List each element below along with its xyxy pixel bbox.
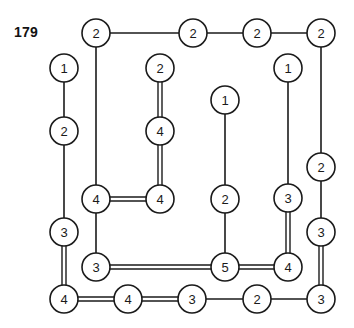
graph-node: 3 (178, 285, 206, 313)
graph-node: 4 (146, 185, 174, 213)
graph-node: 4 (274, 253, 302, 281)
node-label: 2 (221, 192, 228, 207)
graph-node: 4 (50, 285, 78, 313)
graph-node: 3 (307, 218, 335, 246)
graph-node: 4 (146, 117, 174, 145)
node-label: 3 (92, 260, 99, 275)
graph-node: 2 (243, 285, 271, 313)
node-label: 2 (253, 292, 260, 307)
graph-node: 1 (50, 54, 78, 82)
node-label: 3 (317, 292, 324, 307)
node-label: 2 (253, 26, 260, 41)
graph-node: 2 (179, 19, 207, 47)
graph-node: 2 (243, 19, 271, 47)
node-label: 4 (284, 260, 291, 275)
node-label: 3 (284, 191, 291, 206)
node-label: 4 (156, 192, 163, 207)
graph-node: 2 (307, 19, 335, 47)
graph-node: 2 (211, 185, 239, 213)
node-label: 3 (60, 225, 67, 240)
graph-node: 2 (82, 19, 110, 47)
node-label: 2 (156, 61, 163, 76)
node-label: 4 (92, 192, 99, 207)
graph-node: 4 (82, 185, 110, 213)
graph-node: 1 (211, 86, 239, 114)
graph-node: 2 (50, 117, 78, 145)
graph-node: 3 (50, 218, 78, 246)
graph-node: 3 (274, 184, 302, 212)
graph-node: 3 (307, 285, 335, 313)
graph-node: 2 (307, 153, 335, 181)
node-label: 2 (317, 160, 324, 175)
node-label: 1 (221, 93, 228, 108)
graph-node: 3 (82, 253, 110, 281)
graph-node: 4 (114, 285, 142, 313)
graph-figure: 179 2222121241244233335444323 (0, 0, 354, 328)
node-label: 4 (60, 292, 67, 307)
node-label: 2 (92, 26, 99, 41)
graph-node: 2 (146, 54, 174, 82)
graph-canvas: 2222121241244233335444323 (0, 0, 354, 328)
node-label: 1 (284, 61, 291, 76)
node-label: 1 (60, 61, 67, 76)
graph-node: 5 (211, 253, 239, 281)
node-label: 5 (221, 260, 228, 275)
node-label: 2 (189, 26, 196, 41)
node-label: 2 (317, 26, 324, 41)
node-label: 3 (317, 225, 324, 240)
node-label: 2 (60, 124, 67, 139)
node-label: 4 (156, 124, 163, 139)
graph-node: 1 (274, 54, 302, 82)
node-label: 3 (188, 292, 195, 307)
node-label: 4 (124, 292, 131, 307)
